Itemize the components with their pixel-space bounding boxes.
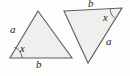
right-triangle-side-b-label: b xyxy=(88,0,94,9)
geometry-figure: a b x b a x xyxy=(0,0,130,76)
left-triangle-angle-x-label: x xyxy=(20,44,25,55)
left-triangle-side-a-label: a xyxy=(10,24,16,35)
right-triangle-angle-x-label: x xyxy=(103,13,108,24)
left-triangle-side-b-label: b xyxy=(36,59,42,70)
right-triangle-side-a-label: a xyxy=(106,36,112,47)
